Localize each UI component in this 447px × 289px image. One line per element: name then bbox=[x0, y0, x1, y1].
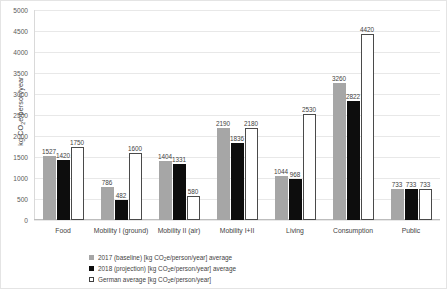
bar[interactable] bbox=[303, 114, 316, 220]
x-category-label: Mobility II (air) bbox=[150, 224, 208, 238]
plot-area: 1527142017507864821600140413315802190183… bbox=[34, 10, 440, 220]
y-tick-label: 3000 bbox=[13, 91, 28, 98]
bar-wrapper: 733 bbox=[405, 10, 418, 220]
bar-wrapper: 1331 bbox=[173, 10, 186, 220]
bar-wrapper: 1420 bbox=[57, 10, 70, 220]
bar[interactable] bbox=[173, 164, 186, 220]
bar[interactable] bbox=[419, 189, 432, 220]
bar-wrapper: 2822 bbox=[347, 10, 360, 220]
bar[interactable] bbox=[115, 200, 128, 220]
x-category-label: Public bbox=[382, 224, 440, 238]
y-tick-label: 500 bbox=[17, 196, 28, 203]
bar-value-label: 580 bbox=[188, 188, 199, 195]
y-tick-label: 4000 bbox=[13, 49, 28, 56]
bar-wrapper: 3260 bbox=[333, 10, 346, 220]
bar[interactable] bbox=[159, 161, 172, 220]
bar-wrapper: 1527 bbox=[43, 10, 56, 220]
bar-wrapper: 733 bbox=[419, 10, 432, 220]
bar-group: 219018362180 bbox=[208, 10, 266, 220]
y-tick-label: 1500 bbox=[13, 154, 28, 161]
bar-wrapper: 4420 bbox=[361, 10, 374, 220]
bar-group: 152714201750 bbox=[34, 10, 92, 220]
bar-group: 7864821600 bbox=[92, 10, 150, 220]
bar-group: 733733733 bbox=[382, 10, 440, 220]
gray-square-icon bbox=[89, 255, 94, 260]
bar-wrapper: 1404 bbox=[159, 10, 172, 220]
bar[interactable] bbox=[101, 187, 114, 220]
bar-value-label: 1600 bbox=[128, 145, 142, 152]
bar-value-label: 2190 bbox=[216, 120, 230, 127]
black-square-icon bbox=[89, 266, 94, 271]
bar-value-label: 1044 bbox=[274, 168, 288, 175]
bar-wrapper: 1044 bbox=[275, 10, 288, 220]
y-tick-label: 0 bbox=[24, 217, 28, 224]
bar-value-label: 1836 bbox=[230, 135, 244, 142]
bar-wrapper: 1600 bbox=[129, 10, 142, 220]
x-category-label: Mobility I+II bbox=[208, 224, 266, 238]
bar-value-label: 733 bbox=[406, 181, 417, 188]
bar[interactable] bbox=[391, 189, 404, 220]
bar-value-label: 1331 bbox=[172, 156, 186, 163]
bar[interactable] bbox=[275, 176, 288, 220]
legend-item[interactable]: 2017 (baseline) [kg CO2e/person/year] av… bbox=[89, 253, 236, 262]
bar-value-label: 2180 bbox=[244, 120, 258, 127]
gridline bbox=[34, 220, 440, 221]
bar[interactable] bbox=[231, 143, 244, 220]
legend-item[interactable]: 2018 (projection) [kg CO2e/person/year] … bbox=[89, 264, 236, 273]
bar-wrapper: 580 bbox=[187, 10, 200, 220]
bar-wrapper: 482 bbox=[115, 10, 128, 220]
y-tick-label: 2500 bbox=[13, 112, 28, 119]
legend-item[interactable]: German average [kg CO2e/person/year] bbox=[89, 275, 236, 284]
bar-value-label: 968 bbox=[290, 171, 301, 178]
bar-value-label: 2822 bbox=[346, 93, 360, 100]
bar[interactable] bbox=[129, 153, 142, 220]
bar-value-label: 1420 bbox=[56, 152, 70, 159]
y-axis-tick-labels: 5000450040003500300025002000150010005000 bbox=[1, 10, 32, 220]
bar[interactable] bbox=[347, 101, 360, 220]
bar-wrapper: 1750 bbox=[71, 10, 84, 220]
y-tick-label: 2000 bbox=[13, 133, 28, 140]
bar[interactable] bbox=[187, 196, 200, 220]
bar[interactable] bbox=[289, 179, 302, 220]
bar-value-label: 1527 bbox=[42, 148, 56, 155]
white-square-icon bbox=[89, 277, 94, 282]
bar-value-label: 4420 bbox=[360, 26, 374, 33]
bar-value-label: 2530 bbox=[302, 106, 316, 113]
bar-wrapper: 2180 bbox=[245, 10, 258, 220]
legend-label: German average [kg CO2e/person/year] bbox=[98, 275, 211, 285]
legend-label: 2018 (projection) [kg CO2e/person/year] … bbox=[98, 264, 236, 274]
bar[interactable] bbox=[217, 128, 230, 220]
bar[interactable] bbox=[43, 156, 56, 220]
bar-group: 326028224420 bbox=[324, 10, 382, 220]
x-category-label: Living bbox=[266, 224, 324, 238]
y-tick-label: 1000 bbox=[13, 175, 28, 182]
bar-wrapper: 2190 bbox=[217, 10, 230, 220]
bar-value-label: 3260 bbox=[332, 75, 346, 82]
bar[interactable] bbox=[333, 83, 346, 220]
bar-value-label: 733 bbox=[420, 181, 431, 188]
bar[interactable] bbox=[361, 34, 374, 220]
y-tick-label: 3500 bbox=[13, 70, 28, 77]
x-category-label: Mobility I (ground) bbox=[92, 224, 150, 238]
x-category-label: Consumption bbox=[324, 224, 382, 238]
bar-group: 10449682530 bbox=[266, 10, 324, 220]
bar-value-label: 1750 bbox=[70, 139, 84, 146]
bar-value-label: 1404 bbox=[158, 153, 172, 160]
legend-label: 2017 (baseline) [kg CO2e/person/year] av… bbox=[98, 253, 232, 263]
bar-wrapper: 968 bbox=[289, 10, 302, 220]
bar[interactable] bbox=[57, 160, 70, 220]
x-axis-category-labels: FoodMobility I (ground)Mobility II (air)… bbox=[34, 224, 440, 238]
y-tick-label: 4500 bbox=[13, 28, 28, 35]
x-category-label: Food bbox=[34, 224, 92, 238]
bar-chart: kg CO2e/person/year 50004500400035003000… bbox=[0, 0, 447, 289]
bar-groups: 1527142017507864821600140413315802190183… bbox=[34, 10, 440, 220]
y-tick-label: 5000 bbox=[13, 7, 28, 14]
bar-wrapper: 786 bbox=[101, 10, 114, 220]
bar-wrapper: 2530 bbox=[303, 10, 316, 220]
chart-legend: 2017 (baseline) [kg CO2e/person/year] av… bbox=[89, 253, 236, 284]
bar[interactable] bbox=[245, 128, 258, 220]
bar-value-label: 482 bbox=[116, 192, 127, 199]
bar[interactable] bbox=[405, 189, 418, 220]
bar[interactable] bbox=[71, 147, 84, 221]
bar-wrapper: 1836 bbox=[231, 10, 244, 220]
